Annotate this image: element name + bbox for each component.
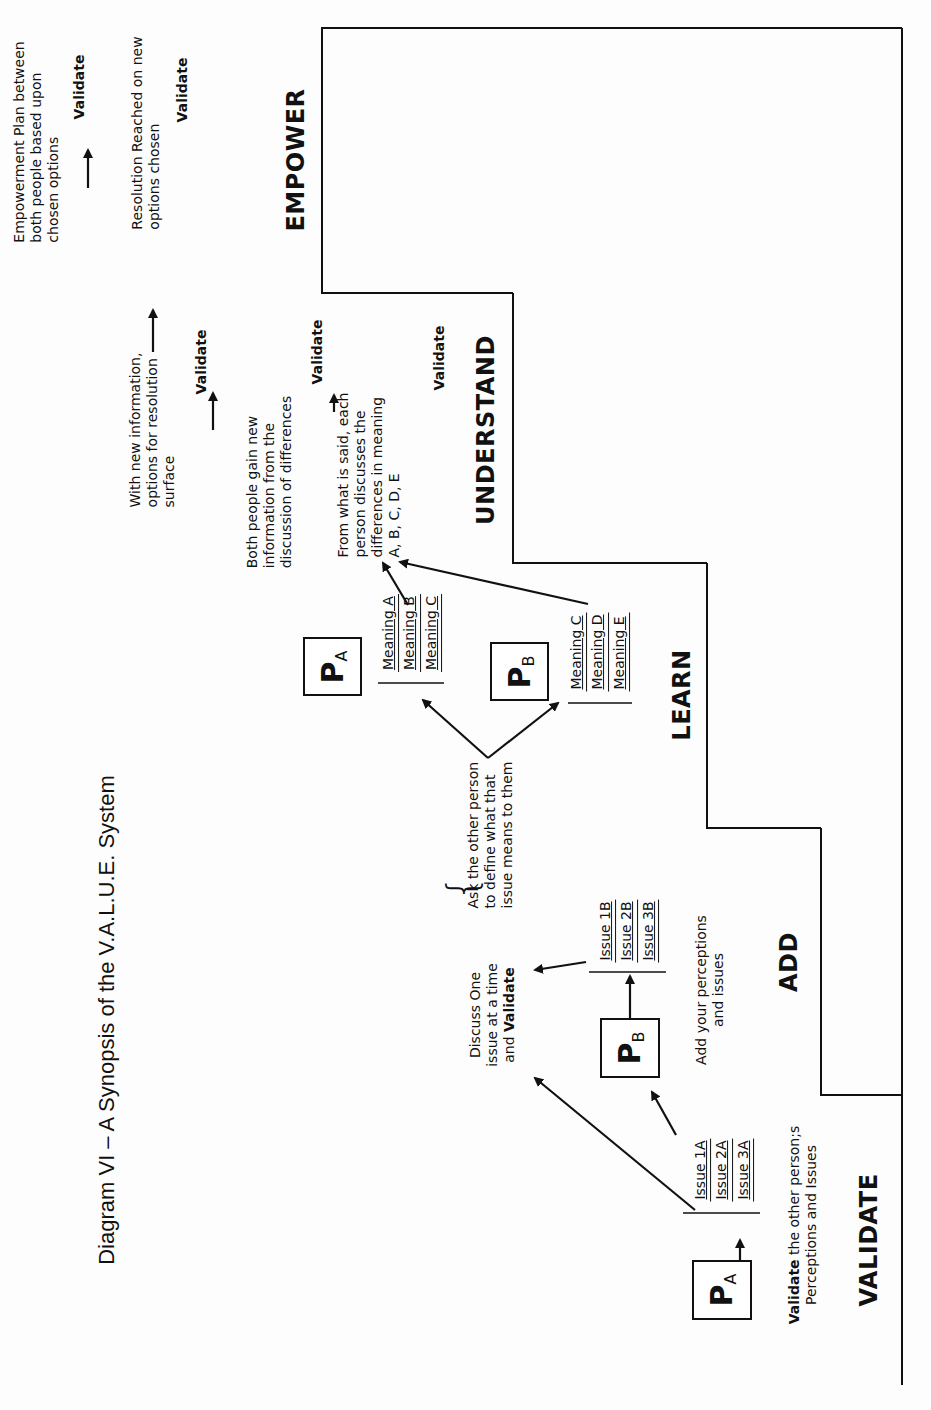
validate-label: Validate: [174, 58, 191, 123]
meaning-list-b: Meaning C Meaning D Meaning E: [566, 612, 630, 691]
stage-label-learn: LEARN: [668, 649, 697, 740]
stage-label-validate: VALIDATE: [855, 1173, 884, 1306]
list-item: Meaning E: [609, 612, 630, 691]
empower-step: [322, 28, 902, 293]
from-what-text: From what is said, each person discusses…: [335, 393, 403, 558]
stage-label-understand: UNDERSTAND: [472, 335, 501, 525]
list-item: Meaning D: [587, 612, 608, 691]
stage-label-empower: EMPOWER: [282, 88, 311, 231]
person-a-box: PA: [692, 1260, 752, 1320]
validate-label: Validate: [309, 320, 326, 385]
list-item: Issue 1B: [595, 899, 616, 962]
diagram-title: Diagram VI – A Synopsis of the V.A.L.U.E…: [94, 775, 121, 1265]
learn-step: [707, 563, 821, 828]
with-new-text: With new information, options for resolu…: [127, 353, 178, 508]
person-a-box-learn: PA: [303, 637, 362, 696]
add-step: [821, 828, 902, 1095]
discuss-caption: Discuss One issue at a time and Validate: [467, 963, 518, 1067]
empowerment-plan-text: Empowerment Plan between both people bas…: [11, 41, 62, 242]
issue-list-b: Issue 1B Issue 2B Issue 3B: [595, 899, 659, 962]
validate-caption: Validate the other person;s Perceptions …: [786, 1126, 820, 1324]
understand-step: [513, 293, 707, 563]
list-item: Issue 3A: [733, 1138, 754, 1201]
diagram-page: Diagram VI – A Synopsis of the V.A.L.U.E…: [0, 0, 931, 1410]
validate-label: Validate: [71, 55, 88, 120]
list-item: Issue 2B: [616, 899, 637, 962]
both-people-text: Both people gain new information from th…: [244, 396, 295, 569]
list-item: Meaning C: [421, 594, 442, 672]
list-item: Meaning B: [399, 594, 420, 672]
list-item: Meaning A: [378, 594, 399, 672]
validate-label: Validate: [431, 326, 448, 391]
list-item: Issue 2A: [711, 1138, 732, 1201]
add-caption: Add your perceptions and issues: [693, 915, 727, 1065]
validate-label: Validate: [193, 330, 210, 395]
list-item: Issue 1A: [690, 1138, 711, 1201]
ask-caption: Ask the other person to define what that…: [465, 762, 516, 909]
issue-list-a: Issue 1A Issue 2A Issue 3A: [690, 1138, 754, 1201]
stage-label-add: ADD: [775, 932, 804, 992]
meaning-list-a: Meaning A Meaning B Meaning C: [378, 594, 442, 672]
list-item: Meaning C: [566, 612, 587, 691]
person-b-box-learn: PB: [490, 642, 549, 701]
resolution-text: Resolution Reached on new options chosen: [129, 36, 163, 229]
list-item: Issue 3B: [638, 899, 659, 962]
person-b-box: PB: [600, 1018, 660, 1078]
